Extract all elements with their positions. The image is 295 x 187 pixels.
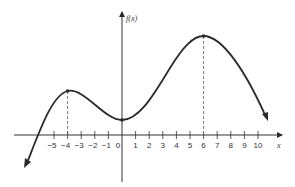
x-axis-tick-labels: −5 −4 −3 −2 −1 0 1 2 3 4 5 6 7 8 9 10 [47, 141, 263, 150]
local-min-point [120, 118, 124, 122]
local-max-point [66, 89, 70, 93]
curve-right-arrowhead [262, 112, 268, 121]
tick-label: 10 [254, 141, 263, 150]
tick-label: −3 [75, 141, 85, 150]
function-graph: −5 −4 −3 −2 −1 0 1 2 3 4 5 6 7 8 9 10 f(… [0, 0, 295, 187]
tick-label: 6 [201, 141, 206, 150]
tick-label: −4 [61, 141, 71, 150]
tick-label: −5 [47, 141, 57, 150]
tick-label: 1 [133, 141, 138, 150]
tick-label: 5 [188, 141, 193, 150]
tick-label: 9 [242, 141, 247, 150]
tick-label: −1 [102, 141, 112, 150]
tick-label: 0 [116, 141, 121, 150]
max-point [202, 34, 206, 38]
tick-label: −2 [88, 141, 98, 150]
tick-label: 7 [215, 141, 220, 150]
tick-label: 8 [229, 141, 234, 150]
x-axis-label: x [276, 141, 281, 150]
tick-label: 4 [174, 141, 179, 150]
tick-label: 2 [147, 141, 152, 150]
tick-label: 3 [161, 141, 166, 150]
y-axis-label: f(x) [126, 14, 137, 23]
